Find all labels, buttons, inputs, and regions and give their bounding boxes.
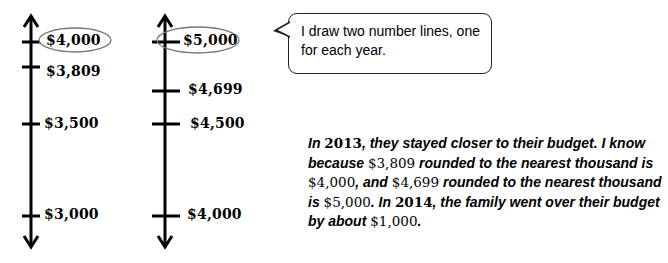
text: . In (371, 194, 395, 210)
tick-label: $3,500 (44, 115, 99, 131)
tick-label: $3,809 (46, 63, 101, 79)
amount: $4,000 (308, 174, 355, 190)
bubble-line-2: for each year. (301, 41, 491, 60)
text: In (308, 135, 324, 151)
tick-label: $4,000 (187, 206, 242, 222)
tick-label: $4,000 (46, 32, 101, 48)
amount: $3,809 (368, 155, 415, 171)
explanation-paragraph: In 2013, they stayed closer to their bud… (308, 134, 668, 232)
tick-label: $4,500 (190, 115, 245, 131)
tick-label: $3,000 (44, 206, 99, 222)
tick-label: $4,699 (188, 81, 243, 97)
speech-bubble-tail-overlay (274, 18, 292, 42)
amount: $1,000 (370, 213, 417, 229)
amount: $5,000 (324, 194, 371, 210)
year-2014: 2014 (395, 194, 433, 210)
text: . (417, 213, 421, 229)
text: rounded to the nearest thousand is (415, 155, 653, 171)
amount: $4,699 (392, 174, 439, 190)
speech-bubble: I draw two number lines, one for each ye… (288, 13, 492, 74)
bubble-line-1: I draw two number lines, one (301, 22, 491, 41)
year-2013: 2013 (324, 135, 362, 151)
tick-label: $5,000 (183, 32, 238, 48)
text: , and (355, 174, 392, 190)
